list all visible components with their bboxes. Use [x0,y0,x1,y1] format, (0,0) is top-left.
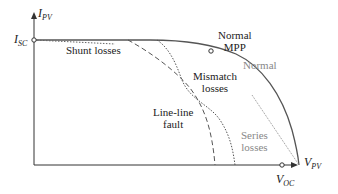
voc-label: VOC [276,172,294,188]
voc-point [280,163,284,167]
mismatch-losses-curve [157,40,235,165]
normal-label: Normal [243,59,277,71]
isc-label: ISC [14,32,27,48]
shunt-losses-label: Shunt losses [66,44,121,56]
iv-curve-diagram [0,0,338,194]
series-losses-label: Serieslosses [241,129,268,153]
x-axis-label: VPV [304,155,321,171]
normal-mpp-point [209,49,213,53]
line-line-fault-label: Line-linefault [153,106,193,130]
y-axis-label: IPV [38,6,52,22]
line-line-fault-curve [128,40,215,165]
isc-point [32,38,36,42]
normal-mpp-label: NormalMPP [218,29,252,53]
y-axis-arrow [31,12,37,19]
x-axis-arrow [291,162,298,168]
mismatch-losses-label: Mismatchlosses [193,70,237,94]
